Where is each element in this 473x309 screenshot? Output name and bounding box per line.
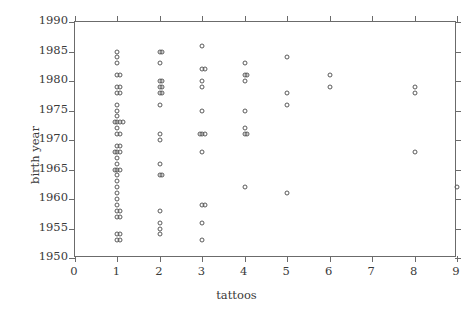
data-point	[242, 185, 247, 190]
data-point	[200, 238, 205, 243]
plot-area	[74, 21, 456, 257]
data-point	[157, 138, 162, 143]
data-point	[157, 226, 162, 231]
data-point	[160, 173, 165, 178]
y-tick	[455, 258, 461, 259]
data-point	[115, 49, 120, 54]
y-tick-label: 1950	[22, 251, 68, 262]
x-tick-label: 9	[444, 266, 468, 277]
x-tick	[457, 16, 458, 22]
x-tick	[160, 256, 161, 262]
data-point	[115, 102, 120, 107]
x-tick	[415, 256, 416, 262]
x-tick-label: 7	[359, 266, 383, 277]
data-point	[157, 208, 162, 213]
x-tick	[457, 256, 458, 262]
x-tick	[75, 256, 76, 262]
data-point	[157, 61, 162, 66]
data-point	[115, 126, 120, 131]
x-tick	[245, 256, 246, 262]
data-point	[197, 132, 202, 137]
data-point	[200, 108, 205, 113]
y-tick	[455, 81, 461, 82]
data-point	[202, 202, 207, 207]
data-point	[412, 84, 417, 89]
data-point	[160, 49, 165, 54]
data-point	[118, 208, 123, 213]
y-tick	[69, 52, 75, 53]
x-tick	[202, 256, 203, 262]
data-point	[327, 84, 332, 89]
data-point	[118, 167, 123, 172]
y-tick-label: 1985	[22, 45, 68, 56]
x-tick-label: 5	[274, 266, 298, 277]
data-point	[112, 167, 117, 172]
data-point	[120, 120, 125, 125]
data-point	[115, 55, 120, 60]
x-tick-label: 6	[317, 266, 341, 277]
x-tick	[330, 256, 331, 262]
y-tick	[69, 140, 75, 141]
y-tick-label: 1980	[22, 74, 68, 85]
data-point	[118, 232, 123, 237]
data-point	[118, 238, 123, 243]
y-tick	[69, 170, 75, 171]
x-tick-label: 2	[147, 266, 171, 277]
data-point	[115, 155, 120, 160]
x-tick	[415, 16, 416, 22]
data-point	[157, 220, 162, 225]
data-point	[412, 90, 417, 95]
data-point	[285, 102, 290, 107]
data-point	[202, 132, 207, 137]
data-point	[115, 191, 120, 196]
data-point	[118, 149, 123, 154]
x-tick	[117, 16, 118, 22]
y-tick-label: 1965	[22, 163, 68, 174]
data-point	[112, 120, 117, 125]
y-tick-label: 1955	[22, 222, 68, 233]
y-tick	[455, 229, 461, 230]
y-tick	[69, 199, 75, 200]
data-point	[157, 132, 162, 137]
y-tick-label: 1990	[22, 15, 68, 26]
data-point	[245, 73, 250, 78]
scatter-plot-figure: birth year 19501955196019651970197519801…	[0, 0, 473, 309]
data-point	[455, 185, 460, 190]
data-point	[157, 232, 162, 237]
y-tick-label: 1975	[22, 104, 68, 115]
data-point	[115, 61, 120, 66]
x-tick	[287, 256, 288, 262]
data-point	[118, 84, 123, 89]
y-tick	[455, 22, 461, 23]
data-point	[202, 67, 207, 72]
data-point	[200, 43, 205, 48]
data-point	[112, 149, 117, 154]
data-point	[412, 149, 417, 154]
x-tick	[202, 16, 203, 22]
x-tick	[287, 16, 288, 22]
data-point	[285, 90, 290, 95]
data-point	[115, 197, 120, 202]
x-tick	[245, 16, 246, 22]
x-tick	[75, 16, 76, 22]
data-point	[200, 149, 205, 154]
data-point	[115, 173, 120, 178]
data-point	[200, 84, 205, 89]
y-tick	[455, 140, 461, 141]
data-point	[115, 114, 120, 119]
data-point	[115, 202, 120, 207]
x-tick	[372, 16, 373, 22]
data-point	[160, 79, 165, 84]
data-point	[157, 102, 162, 107]
data-point	[115, 185, 120, 190]
x-tick	[372, 256, 373, 262]
data-point	[115, 161, 120, 166]
x-tick	[160, 16, 161, 22]
y-tick	[455, 170, 461, 171]
x-tick-label: 4	[232, 266, 256, 277]
data-point	[200, 220, 205, 225]
data-point	[160, 84, 165, 89]
data-point	[157, 161, 162, 166]
data-point	[118, 132, 123, 137]
data-point	[115, 179, 120, 184]
